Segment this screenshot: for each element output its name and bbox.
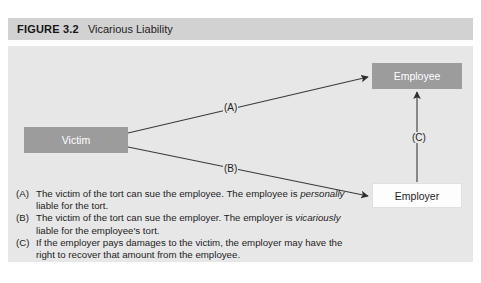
arrow-victim-to-employee	[128, 77, 368, 133]
legend-tag: (A)	[16, 188, 36, 200]
figure-body-panel: Victim Employee Employer (A) (B) (C) (A)…	[8, 46, 473, 262]
figure-title: Vicarious Liability	[88, 23, 173, 35]
legend-emphasis: vicariously	[295, 212, 340, 223]
legend-item: (A) The victim of the tort can sue the e…	[16, 188, 346, 212]
node-victim: Victim	[24, 127, 128, 153]
legend-text-before: If the employer pays damages to the vict…	[36, 237, 342, 260]
figure-container: FIGURE 3.2 Vicarious Liability Vi	[0, 0, 481, 283]
figure-header: FIGURE 3.2 Vicarious Liability	[8, 18, 473, 40]
legend-tag: (B)	[16, 212, 36, 224]
legend-text-after: liable for the tort.	[36, 200, 108, 211]
figure-legend: (A) The victim of the tort can sue the e…	[16, 188, 346, 261]
edge-label-b: (B)	[223, 163, 238, 174]
node-employer: Employer	[372, 183, 462, 208]
node-employee: Employee	[372, 63, 462, 89]
legend-text-after: liable for the employee's tort.	[36, 225, 160, 236]
legend-text-before: The victim of the tort can sue the emplo…	[36, 212, 295, 223]
node-employee-label: Employee	[394, 70, 441, 82]
legend-emphasis: personally	[300, 188, 344, 199]
legend-item: (B) The victim of the tort can sue the e…	[16, 212, 346, 236]
legend-text: If the employer pays damages to the vict…	[36, 237, 346, 261]
node-employer-label: Employer	[395, 190, 439, 202]
node-victim-label: Victim	[62, 134, 90, 146]
legend-text-before: The victim of the tort can sue the emplo…	[36, 188, 300, 199]
legend-item: (C) If the employer pays damages to the …	[16, 237, 346, 261]
legend-text: The victim of the tort can sue the emplo…	[36, 212, 346, 236]
legend-tag: (C)	[16, 237, 36, 249]
figure-number: FIGURE 3.2	[17, 23, 79, 35]
edge-label-a: (A)	[223, 102, 238, 113]
diagram-area: Victim Employee Employer (A) (B) (C) (A)…	[8, 46, 473, 262]
edge-label-c: (C)	[411, 132, 427, 143]
legend-text: The victim of the tort can sue the emplo…	[36, 188, 346, 212]
